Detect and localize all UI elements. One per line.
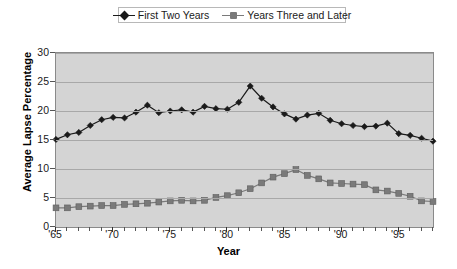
x-tickmark-minor <box>181 227 182 231</box>
x-tickmark-major <box>398 227 399 232</box>
square-data-point <box>76 204 82 210</box>
gridline <box>56 198 433 199</box>
diamond-data-point <box>110 114 116 120</box>
x-tickmark-minor <box>101 227 102 231</box>
diamond-marker-icon <box>119 10 129 20</box>
square-data-point <box>282 171 288 177</box>
y-axis-title: Average Lapse Percentage <box>21 32 33 212</box>
series-line <box>56 86 433 141</box>
gridline <box>56 169 433 170</box>
square-data-point <box>396 190 402 196</box>
x-tickmark-minor <box>78 227 79 231</box>
x-tickmark-major <box>283 227 284 232</box>
x-tickmark-minor <box>272 227 273 231</box>
x-tickmark-minor <box>295 227 296 231</box>
x-tickmark-minor <box>352 227 353 231</box>
y-tickmark <box>50 110 55 111</box>
diamond-data-point <box>339 121 345 127</box>
square-data-point <box>316 176 322 182</box>
diamond-data-point <box>201 103 207 109</box>
square-data-point <box>53 205 59 211</box>
legend-label-series-1: First Two Years <box>138 10 210 21</box>
x-tickmark-minor <box>261 227 262 231</box>
gridline <box>56 111 433 112</box>
y-tickmark <box>50 81 55 82</box>
diamond-data-point <box>361 124 367 130</box>
square-data-point <box>247 186 253 192</box>
square-data-point <box>87 203 93 209</box>
legend-marker-diamond-icon <box>113 10 135 21</box>
x-tickmark-minor <box>204 227 205 231</box>
square-data-point <box>430 199 436 205</box>
square-data-point <box>304 172 310 178</box>
gridline <box>56 53 433 54</box>
square-data-point <box>156 199 162 205</box>
diamond-data-point <box>64 132 70 138</box>
diamond-data-point <box>373 123 379 129</box>
y-tickmark <box>50 52 55 53</box>
square-data-point <box>339 181 345 187</box>
square-data-point <box>384 188 390 194</box>
square-data-point <box>350 181 356 187</box>
x-tickmark-minor <box>249 227 250 231</box>
diamond-data-point <box>293 116 299 122</box>
diamond-data-point <box>179 107 185 113</box>
x-tickmark-major <box>341 227 342 232</box>
square-data-point <box>110 203 116 209</box>
square-data-point <box>259 180 265 186</box>
diamond-data-point <box>99 117 105 123</box>
x-tickmark-minor <box>158 227 159 231</box>
y-tickmark <box>50 168 55 169</box>
diamond-data-point <box>190 109 196 115</box>
square-data-point <box>133 201 139 207</box>
legend-label-series-2: Years Three and Later <box>247 10 351 21</box>
diamond-data-point <box>304 112 310 118</box>
square-data-point <box>327 180 333 186</box>
diamond-data-point <box>133 109 139 115</box>
x-tickmark-major <box>169 227 170 232</box>
x-axis-title: Year <box>0 245 457 257</box>
x-tickmark-minor <box>421 227 422 231</box>
square-data-point <box>99 203 105 209</box>
x-tickmark-minor <box>329 227 330 231</box>
x-tickmark-minor <box>432 227 433 231</box>
x-tickmark-minor <box>215 227 216 231</box>
chart-legend: First Two Years Years Three and Later <box>118 7 346 23</box>
legend-item-first-two-years: First Two Years <box>113 10 210 21</box>
x-tickmark-minor <box>89 227 90 231</box>
x-tickmark-minor <box>409 227 410 231</box>
diamond-data-point <box>76 129 82 135</box>
x-tickmark-minor <box>318 227 319 231</box>
diamond-data-point <box>121 115 127 121</box>
x-axis-tick-labels: '65'70'75'80'85'90'95 <box>0 229 457 243</box>
gridline <box>56 82 433 83</box>
square-data-point <box>65 205 71 211</box>
legend-item-years-three-and-later: Years Three and Later <box>222 10 351 21</box>
square-data-point <box>144 200 150 206</box>
diamond-data-point <box>327 117 333 123</box>
diamond-data-point <box>430 138 436 144</box>
diamond-data-point <box>144 102 150 108</box>
square-data-point <box>122 201 128 207</box>
x-tickmark-minor <box>375 227 376 231</box>
legend-marker-square-icon <box>222 10 244 21</box>
x-tickmark-major <box>226 227 227 232</box>
square-marker-icon <box>230 12 237 19</box>
x-tickmark-major <box>55 227 56 232</box>
diamond-data-point <box>87 122 93 128</box>
x-tickmark-minor <box>146 227 147 231</box>
chart-container: First Two Years Years Three and Later 05… <box>0 0 457 269</box>
diamond-data-point <box>350 122 356 128</box>
plot-area <box>55 52 434 228</box>
x-tickmark-minor <box>124 227 125 231</box>
x-tickmark-minor <box>386 227 387 231</box>
square-data-point <box>362 182 368 188</box>
square-data-point <box>373 187 379 193</box>
diamond-data-point <box>407 132 413 138</box>
square-data-point <box>270 174 276 180</box>
x-tickmark-major <box>112 227 113 232</box>
x-tickmark-minor <box>135 227 136 231</box>
x-tickmark-minor <box>238 227 239 231</box>
x-tickmark-minor <box>66 227 67 231</box>
x-tickmark-minor <box>363 227 364 231</box>
